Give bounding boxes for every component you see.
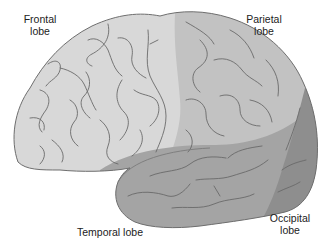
- occipital-lobe-label-line1: Occipital: [262, 212, 318, 224]
- temporal-lobe-label: Temporal lobe: [70, 226, 150, 238]
- parietal-lobe-label-line1: Parietal: [244, 13, 284, 25]
- parietal-lobe-label: Parietal lobe: [244, 13, 284, 37]
- frontal-lobe-label: Frontal lobe: [20, 13, 60, 37]
- frontal-lobe-label-line1: Frontal: [20, 13, 60, 25]
- frontal-lobe-label-line2: lobe: [20, 25, 60, 37]
- parietal-lobe-label-line2: lobe: [244, 25, 284, 37]
- temporal-lobe-label-line1: Temporal lobe: [70, 226, 150, 238]
- occipital-lobe-label: Occipital lobe: [262, 212, 318, 236]
- occipital-lobe-label-line2: lobe: [262, 224, 318, 236]
